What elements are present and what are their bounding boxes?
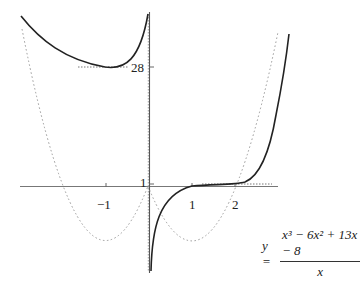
equation-lhs: y = [262, 238, 276, 270]
equation-fraction: x³ − 6x² + 13x − 8 x [280, 227, 360, 280]
x-tick-label-minus1: −1 [97, 198, 111, 211]
equation-denominator: x [317, 262, 323, 280]
function-curve-left [21, 14, 148, 67]
x-tick-label-2: 2 [232, 198, 239, 211]
equation-numerator: x³ − 6x² + 13x − 8 [280, 227, 360, 262]
x-tick-label-1: 1 [189, 198, 196, 211]
y-tick-label-28: 28 [131, 61, 144, 74]
y-tick-label-1: 1 [140, 176, 147, 189]
equation-label: y = x³ − 6x² + 13x − 8 x [262, 227, 360, 280]
